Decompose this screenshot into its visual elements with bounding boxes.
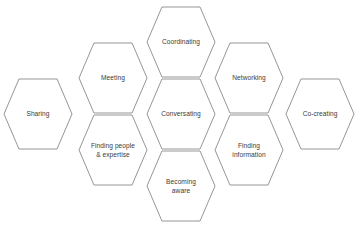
- hex-cell-label-line: Coordinating: [162, 38, 200, 46]
- honeycomb-diagram: SharingMeetingFinding people& expertiseC…: [0, 0, 362, 231]
- hex-cell-label: Networking: [232, 74, 266, 82]
- hex-cell-sharing[interactable]: Sharing: [4, 79, 72, 149]
- honeycomb-svg-canvas: SharingMeetingFinding people& expertiseC…: [0, 0, 362, 231]
- hex-cell-label: Meeting: [101, 74, 125, 82]
- hex-cell-label-line: Sharing: [26, 110, 49, 118]
- hex-cell-finding-information[interactable]: Findinginformation: [215, 115, 283, 185]
- hex-cell-label-line: aware: [172, 187, 191, 194]
- hex-cell-label: Coordinating: [162, 38, 200, 46]
- hex-cell-meeting[interactable]: Meeting: [79, 43, 147, 113]
- hex-cell-label-line: Co-creating: [303, 110, 338, 118]
- hex-cell-networking[interactable]: Networking: [215, 43, 283, 113]
- hex-cell-label: Conversating: [161, 110, 201, 118]
- hex-cell-finding-people-expertise[interactable]: Finding people& expertise: [79, 115, 147, 185]
- hex-cell-label: Sharing: [26, 110, 49, 118]
- hex-cell-co-creating[interactable]: Co-creating: [286, 79, 354, 149]
- hex-cell-label-line: Finding: [238, 142, 260, 150]
- hex-cell-label-line: Conversating: [161, 110, 201, 118]
- hex-cell-label-line: Becoming: [166, 178, 196, 186]
- hex-cell-label-line: Meeting: [101, 74, 125, 82]
- hex-cell-label-line: Finding people: [91, 142, 135, 150]
- hex-cell-label-line: information: [232, 151, 266, 158]
- hex-cell-conversating[interactable]: Conversating: [147, 79, 215, 149]
- hex-cell-label-line: Networking: [232, 74, 266, 82]
- hex-cell-label: Co-creating: [303, 110, 338, 118]
- hex-cells-group: SharingMeetingFinding people& expertiseC…: [4, 7, 354, 221]
- hex-cell-label-line: & expertise: [96, 151, 130, 159]
- hex-cell-label: Finding people& expertise: [91, 142, 135, 159]
- hex-cell-becoming-aware[interactable]: Becomingaware: [147, 151, 215, 221]
- hex-cell-coordinating[interactable]: Coordinating: [147, 7, 215, 77]
